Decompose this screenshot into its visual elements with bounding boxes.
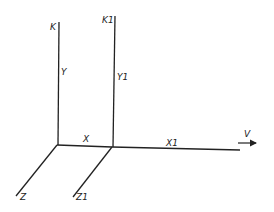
diagram-canvas: K Y X Z K1 Y1 X1 Z1 V xyxy=(0,0,274,212)
y-axis-line xyxy=(58,22,59,145)
coordinate-frames-diagram: K Y X Z K1 Y1 X1 Z1 V xyxy=(0,0,274,212)
label-y1: Y1 xyxy=(117,72,128,82)
x-axis-line xyxy=(57,145,112,147)
y1-axis-line xyxy=(113,16,115,147)
label-z: Z xyxy=(19,192,27,202)
label-v: V xyxy=(244,129,251,139)
label-k1: K1 xyxy=(102,15,114,25)
label-k: K xyxy=(50,22,57,32)
label-z1: Z1 xyxy=(75,192,88,202)
label-x1: X1 xyxy=(165,138,178,148)
label-x: X xyxy=(82,134,90,144)
label-y: Y xyxy=(61,67,68,77)
z1-axis-line xyxy=(73,147,112,197)
z-axis-line xyxy=(16,145,57,196)
